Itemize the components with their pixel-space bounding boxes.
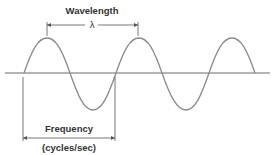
wave-diagram bbox=[0, 0, 274, 155]
lambda-symbol: λ bbox=[90, 19, 95, 30]
frequency-label: Frequency bbox=[45, 123, 93, 134]
sine-wave bbox=[24, 38, 255, 110]
frequency-unit: (cycles/sec) bbox=[42, 142, 96, 153]
wavelength-label: Wavelength bbox=[66, 5, 119, 16]
